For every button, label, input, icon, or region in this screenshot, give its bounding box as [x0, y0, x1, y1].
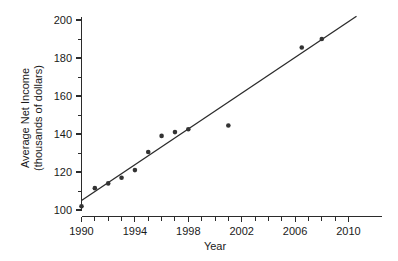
x-tick-label-1994: 1994: [123, 225, 147, 237]
y-axis-ticks: 200 180 160 140 120 100: [54, 14, 82, 216]
y-tick-label-200: 200: [54, 14, 72, 26]
y-tick-label-120: 120: [54, 166, 72, 178]
data-point: [186, 127, 191, 132]
data-point: [79, 204, 84, 209]
y-axis-title-line2: (thousands of dollars): [32, 65, 44, 171]
data-point: [320, 37, 325, 42]
data-point: [299, 45, 304, 50]
x-tick-label-2010: 2010: [336, 225, 360, 237]
y-tick-label-180: 180: [54, 52, 72, 64]
x-tick-label-2002: 2002: [229, 225, 253, 237]
y-axis-title: Average Net Income (thousands of dollars…: [19, 65, 44, 171]
x-axis-title: Year: [204, 240, 227, 252]
y-axis-title-line1: Average Net Income: [19, 68, 31, 168]
data-point: [146, 150, 151, 155]
data-point: [119, 175, 124, 180]
data-point: [159, 134, 164, 139]
data-point: [226, 123, 231, 128]
data-point: [133, 168, 138, 173]
x-axis-minor-ticks: [95, 217, 335, 222]
y-tick-label-140: 140: [54, 128, 72, 140]
x-tick-label-1990: 1990: [69, 225, 93, 237]
x-tick-label-2006: 2006: [283, 225, 307, 237]
data-point: [173, 130, 178, 135]
scatter-plot-svg: Average Net Income (thousands of dollars…: [0, 0, 398, 261]
y-tick-label-100: 100: [54, 204, 72, 216]
x-tick-label-1998: 1998: [176, 225, 200, 237]
data-point: [106, 181, 111, 186]
chart-figure: Average Net Income (thousands of dollars…: [0, 0, 398, 261]
trend-line: [82, 16, 357, 200]
data-point: [93, 186, 98, 191]
y-tick-label-160: 160: [54, 90, 72, 102]
